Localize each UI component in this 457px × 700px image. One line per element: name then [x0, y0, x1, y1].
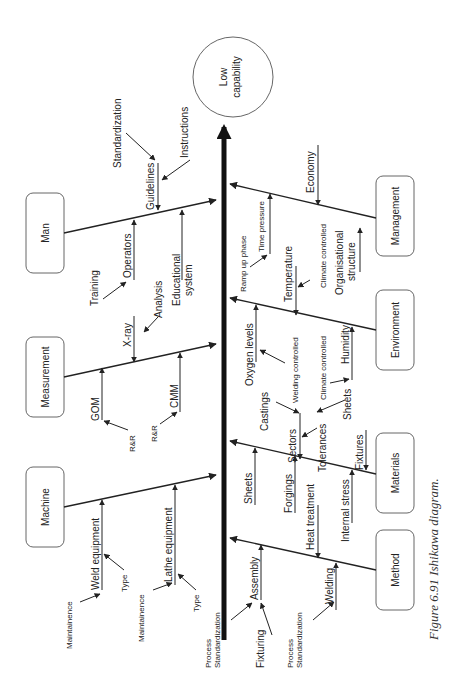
cause-welding-controlled: Welding controlled: [291, 337, 300, 403]
ishikawa-diagram: Low capability Man Guidelines Standardiz…: [0, 0, 457, 700]
cause-temperature: Temperature: [283, 245, 294, 302]
cause-organisational-line1: Organisational: [334, 231, 345, 295]
cause-organisational-line2: structure: [346, 242, 357, 281]
category-machine: Machine: [40, 488, 51, 526]
cause-internal-stress: Internal stress: [340, 479, 351, 542]
category-method: Method: [390, 553, 401, 586]
category-materials: Materials: [390, 453, 401, 494]
effect-label-line1: Low: [218, 67, 229, 86]
cause-educational-line2: system: [183, 264, 194, 296]
cause-forgings: Forgings: [283, 474, 294, 513]
cause-gom: GOM: [90, 397, 101, 421]
cause-process-1: Process: [204, 639, 213, 668]
cause-oxygen-levels: Oxygen levels: [244, 323, 255, 386]
cause-xray: X-ray: [122, 323, 133, 347]
cause-climate-controlled-mgmt: Climate controlled: [319, 224, 328, 288]
cause-rr-2: R&R: [150, 425, 159, 442]
cause-method-process-1: Process: [286, 639, 295, 668]
cause-time-pressure: Time pressure: [257, 201, 266, 252]
branch-materials: Materials Sectors Castings Tolerances Sh…: [230, 389, 414, 542]
cause-climate-controlled-env: Climate controlled: [319, 336, 328, 400]
cause-standardization: Standardization: [112, 99, 123, 169]
cause-humidity: Humidity: [340, 325, 351, 364]
cause-guidelines: Guidelines: [145, 163, 156, 210]
branch-man: Man Guidelines Standardization Instructi…: [26, 99, 216, 307]
cause-training: Training: [89, 270, 100, 306]
branch-machine: Machine Weld equipment Type Maintainence…: [26, 467, 222, 668]
figure-caption: Figure 6.91 Ishikawa diagram.: [426, 478, 441, 641]
effect-node: Low capability: [193, 37, 273, 117]
cause-assembly: Assembly: [249, 557, 260, 600]
cause-rr-1: R&R: [128, 435, 137, 452]
cause-heat-treatment: Heat treatment: [305, 484, 316, 550]
category-management: Management: [390, 187, 401, 246]
category-measurement: Measurement: [40, 346, 51, 407]
category-environment: Environment: [390, 302, 401, 358]
cause-fixtures: Fixtures: [354, 434, 365, 470]
cause-lathe-equipment: Lathe equipment: [163, 507, 174, 582]
cause-welding: Welding: [324, 568, 335, 604]
category-man: Man: [40, 223, 51, 242]
cause-maintainence-2: Maintainence: [137, 594, 146, 642]
cause-type-1: Type: [120, 574, 129, 592]
cause-weld-equipment: Weld equipment: [90, 518, 101, 590]
cause-instructions: Instructions: [179, 107, 190, 158]
cause-sheets: Sheets: [243, 473, 254, 504]
effect-label-line2: capability: [231, 56, 242, 98]
cause-castings: Castings: [259, 392, 270, 431]
cause-fixturing: Fixturing: [255, 630, 266, 668]
cause-operators: Operators: [122, 234, 133, 278]
cause-ramp-up-phase: Ramp up phase: [239, 235, 248, 292]
cause-educational-line1: Educational: [171, 254, 182, 306]
cause-process-2: Standardization: [213, 612, 222, 668]
branch-measurement: Measurement X-ray Analysis GOM R&R CMM R…: [26, 281, 216, 452]
cause-tolerances: Tolerances: [317, 424, 328, 472]
cause-type-2: Type: [192, 594, 201, 612]
cause-maintainence-1: Maintainence: [65, 601, 74, 649]
cause-sectors: Sectors: [287, 429, 298, 463]
cause-sheets-top: Sheets: [342, 389, 353, 420]
branch-management: Management Economy Time pressure Ramp up…: [230, 145, 414, 295]
cause-economy: Economy: [305, 151, 316, 193]
cause-analysis: Analysis: [153, 281, 164, 318]
cause-method-process-2: Standardization: [295, 612, 304, 668]
cause-cmm: CMM: [169, 384, 180, 408]
